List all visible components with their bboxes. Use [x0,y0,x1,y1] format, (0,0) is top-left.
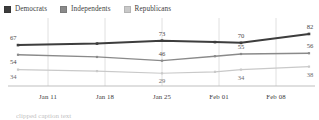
data-point-marker[interactable] [308,33,311,36]
x-tick-label-1: Jan 18 [96,92,114,101]
point-value-label: 70 [238,32,245,39]
data-point-marker[interactable] [17,44,20,47]
legend-label-republicans: Republicans [135,5,172,13]
legend-item-independents[interactable]: Independents [60,5,111,13]
x-tick-label-0: Jan 11 [39,92,57,101]
point-value-label: 34 [10,73,17,80]
data-point-marker[interactable] [240,53,242,55]
data-point-marker[interactable] [240,69,242,71]
footer-caption-text: clipped caption text [0,112,319,120]
point-value-label: 29 [159,77,166,84]
square-swatch-icon [124,6,131,13]
chart-legend: Democrats Independents Republicans [4,3,184,15]
data-point-marker[interactable] [161,39,164,42]
square-swatch-icon [60,6,67,13]
point-value-label: 82 [307,23,314,30]
data-point-marker[interactable] [214,55,216,57]
data-point-marker[interactable] [96,70,98,72]
plot-svg: 677370825446555634293438 [0,18,319,92]
data-point-marker[interactable] [308,66,310,68]
plot-area: 677370825446555634293438 [0,18,319,92]
square-swatch-icon [4,6,11,13]
point-value-label: 55 [238,43,245,50]
series-line-republicans [18,67,309,74]
point-value-label: 67 [10,34,17,41]
point-value-label: 46 [159,50,166,57]
point-value-label: 56 [307,42,314,49]
data-point-marker[interactable] [96,42,99,45]
x-axis-labels: Jan 11Jan 18Jan 25Feb 01Feb 08 [0,92,319,104]
data-point-marker[interactable] [214,41,217,44]
data-point-marker[interactable] [96,56,98,58]
x-tick-label-3: Feb 01 [209,92,228,101]
point-value-label: 34 [238,74,245,81]
legend-label-democrats: Democrats [15,5,47,13]
data-point-marker[interactable] [17,54,19,56]
data-point-marker[interactable] [161,72,163,74]
legend-item-republicans[interactable]: Republicans [124,5,172,13]
line-chart: Democrats Independents Republicans 67737… [0,0,319,120]
x-tick-label-2: Jan 25 [153,92,171,101]
data-point-marker[interactable] [308,52,310,54]
data-point-marker[interactable] [17,69,19,71]
point-value-label: 73 [159,30,166,37]
x-tick-label-4: Feb 08 [266,92,285,101]
data-point-marker[interactable] [214,71,216,73]
legend-label-independents: Independents [71,5,111,13]
legend-item-democrats[interactable]: Democrats [4,5,47,13]
data-point-marker[interactable] [161,60,163,62]
point-value-label: 38 [307,71,314,78]
footer-caption: clipped caption text [0,112,319,120]
point-value-label: 54 [10,58,17,65]
